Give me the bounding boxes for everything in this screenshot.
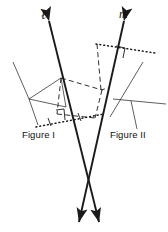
dotted-perpendicular-line-two: [96, 44, 155, 53]
dashed-riser-foot: [101, 88, 108, 90]
line-l-arrow[interactable]: [49, 21, 99, 222]
geometry-diagram-figure: ℓ m Figure I Figure II: [0, 0, 168, 232]
plane-two-edge-slant: [110, 62, 143, 117]
plane-one-edge-to-right: [29, 99, 66, 107]
parallelogram-edge-top: [61, 78, 102, 90]
plane-one-edge-upper-left: [13, 62, 29, 99]
dashed-riser-figure-two: [97, 44, 108, 90]
line-m-arrow[interactable]: [79, 21, 124, 222]
plane-figure-one: [13, 62, 66, 125]
geometry-canvas: [0, 0, 168, 232]
tick-mark-two: [78, 113, 81, 121]
dotted-perpendicular-line-one: [36, 114, 104, 127]
dashed-riser-segment: [97, 44, 101, 90]
plane-two-edge-horizontal: [113, 99, 166, 104]
plane-two-edge-drop: [131, 101, 137, 129]
plane-figure-two: [110, 62, 166, 129]
line-m-label: m: [119, 8, 128, 20]
parallelogram-edge-right: [95, 90, 102, 118]
line-l-label: ℓ: [41, 8, 46, 21]
parallelogram-edge-left: [57, 78, 61, 114]
plane-one-edge-to-apex: [29, 78, 61, 99]
dotted-segment-figure-two: [96, 44, 155, 58]
figure-two-caption: Figure II: [110, 130, 146, 140]
figure-one-caption: Figure I: [22, 130, 55, 140]
plane-one-edge-lower-left: [29, 99, 38, 125]
